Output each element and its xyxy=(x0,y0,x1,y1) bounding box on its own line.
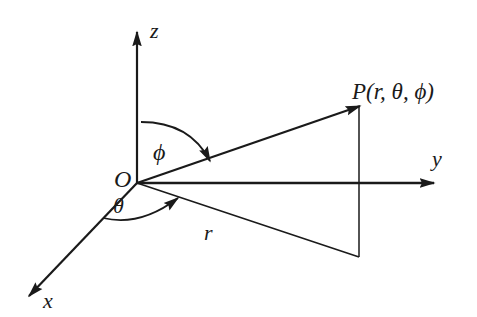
z-axis-label: z xyxy=(149,18,159,43)
x-axis-label: x xyxy=(42,288,53,313)
y-axis-label: y xyxy=(430,146,442,171)
phi-label: ϕ xyxy=(153,139,165,165)
radius-label: r xyxy=(204,220,213,245)
projection-line-r xyxy=(137,183,359,257)
phi-angle-arc xyxy=(141,122,210,161)
spherical-coordinates-diagram: z y x O P(r, θ, ϕ) ϕ θ r xyxy=(0,0,477,317)
position-vector-op xyxy=(137,106,360,183)
origin-label: O xyxy=(114,166,131,192)
point-label: P(r, θ, ϕ) xyxy=(351,79,434,104)
theta-label: θ xyxy=(113,193,124,218)
